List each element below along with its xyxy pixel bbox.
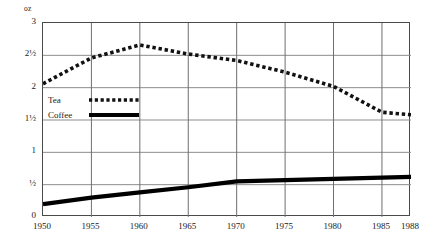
y-axis-tick-label: 2 <box>32 82 37 91</box>
y-axis-tick-label: 3 <box>32 17 37 26</box>
x-axis-tick-label: 1965 <box>178 222 196 231</box>
x-axis-tick-label: 1970 <box>227 222 245 231</box>
x-axis-tick-label: 1975 <box>275 222 293 231</box>
x-axis-tick-label: 1988 <box>401 222 419 231</box>
y-axis-tick-label: 1 <box>32 146 37 155</box>
legend-swatch-coffee-solid <box>88 110 140 120</box>
chart-container: oz 32½21½1½0 Tea Coffee 1950195519601965… <box>0 0 431 243</box>
x-axis-tick-labels: 195019551960196519701975198019851988 <box>0 222 431 240</box>
x-axis-tick-label: 1955 <box>81 222 99 231</box>
y-axis-tick-label: 0 <box>32 211 37 220</box>
y-axis-tick-label: 1½ <box>25 114 36 123</box>
x-axis-tick-label: 1985 <box>372 222 390 231</box>
x-axis-tick-label: 1980 <box>324 222 342 231</box>
y-axis-tick-label: ½ <box>29 179 36 188</box>
legend-label-tea: Tea <box>48 95 88 105</box>
legend-swatch-tea-dotted <box>88 95 140 105</box>
y-axis-tick-labels: 32½21½1½0 <box>0 0 36 243</box>
x-axis-tick-label: 1960 <box>130 222 148 231</box>
legend: Tea Coffee <box>42 90 147 124</box>
legend-item-coffee: Coffee <box>48 107 143 122</box>
y-axis-tick-label: 2½ <box>25 49 36 58</box>
legend-item-tea: Tea <box>48 92 143 107</box>
x-axis-tick-label: 1950 <box>33 222 51 231</box>
legend-label-coffee: Coffee <box>48 110 88 120</box>
series-line-coffee <box>43 177 411 204</box>
